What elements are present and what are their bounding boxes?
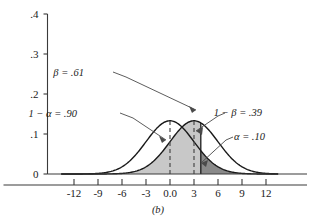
alpha-annotation: α = .10 — [234, 131, 266, 142]
y-tick-label: .1 — [30, 128, 38, 140]
x-tick-label: 0.0 — [163, 187, 177, 199]
statistical-power-chart: .4.3.2.10 -12-9-6-30.036912 β = .611 − α… — [0, 0, 315, 221]
beta-annotation: β = .61 — [52, 67, 84, 78]
x-tick-label: -6 — [117, 187, 127, 199]
y-axis-ticks — [44, 14, 48, 174]
y-tick-label: .2 — [30, 88, 38, 100]
y-axis-tick-labels: .4.3.2.10 — [30, 8, 39, 180]
beta-arrowhead — [189, 106, 196, 113]
x-tick-label: -9 — [93, 187, 103, 199]
y-tick-label: .3 — [30, 48, 39, 60]
x-axis-ticks — [74, 179, 266, 185]
y-tick-label: .4 — [30, 8, 39, 20]
x-tick-label: 12 — [261, 187, 272, 199]
x-tick-label: -12 — [67, 187, 82, 199]
x-axis-tick-labels: -12-9-6-30.036912 — [67, 187, 272, 199]
beta-leader-line — [113, 72, 196, 110]
annotation-labels: β = .611 − α = .901 − β = .39α = .10 — [28, 67, 265, 142]
x-tick-label: -3 — [141, 187, 151, 199]
x-tick-label: 3 — [191, 187, 197, 199]
x-tick-label: 6 — [215, 187, 221, 199]
figure-caption: (b) — [152, 204, 165, 216]
y-tick-label: 0 — [33, 168, 39, 180]
one-minus-alpha-arrowhead — [159, 136, 166, 143]
one-minus-alpha-annotation: 1 − α = .90 — [28, 108, 77, 119]
one-minus-beta-annotation: 1 − β = .39 — [214, 107, 263, 118]
x-tick-label: 9 — [239, 187, 245, 199]
